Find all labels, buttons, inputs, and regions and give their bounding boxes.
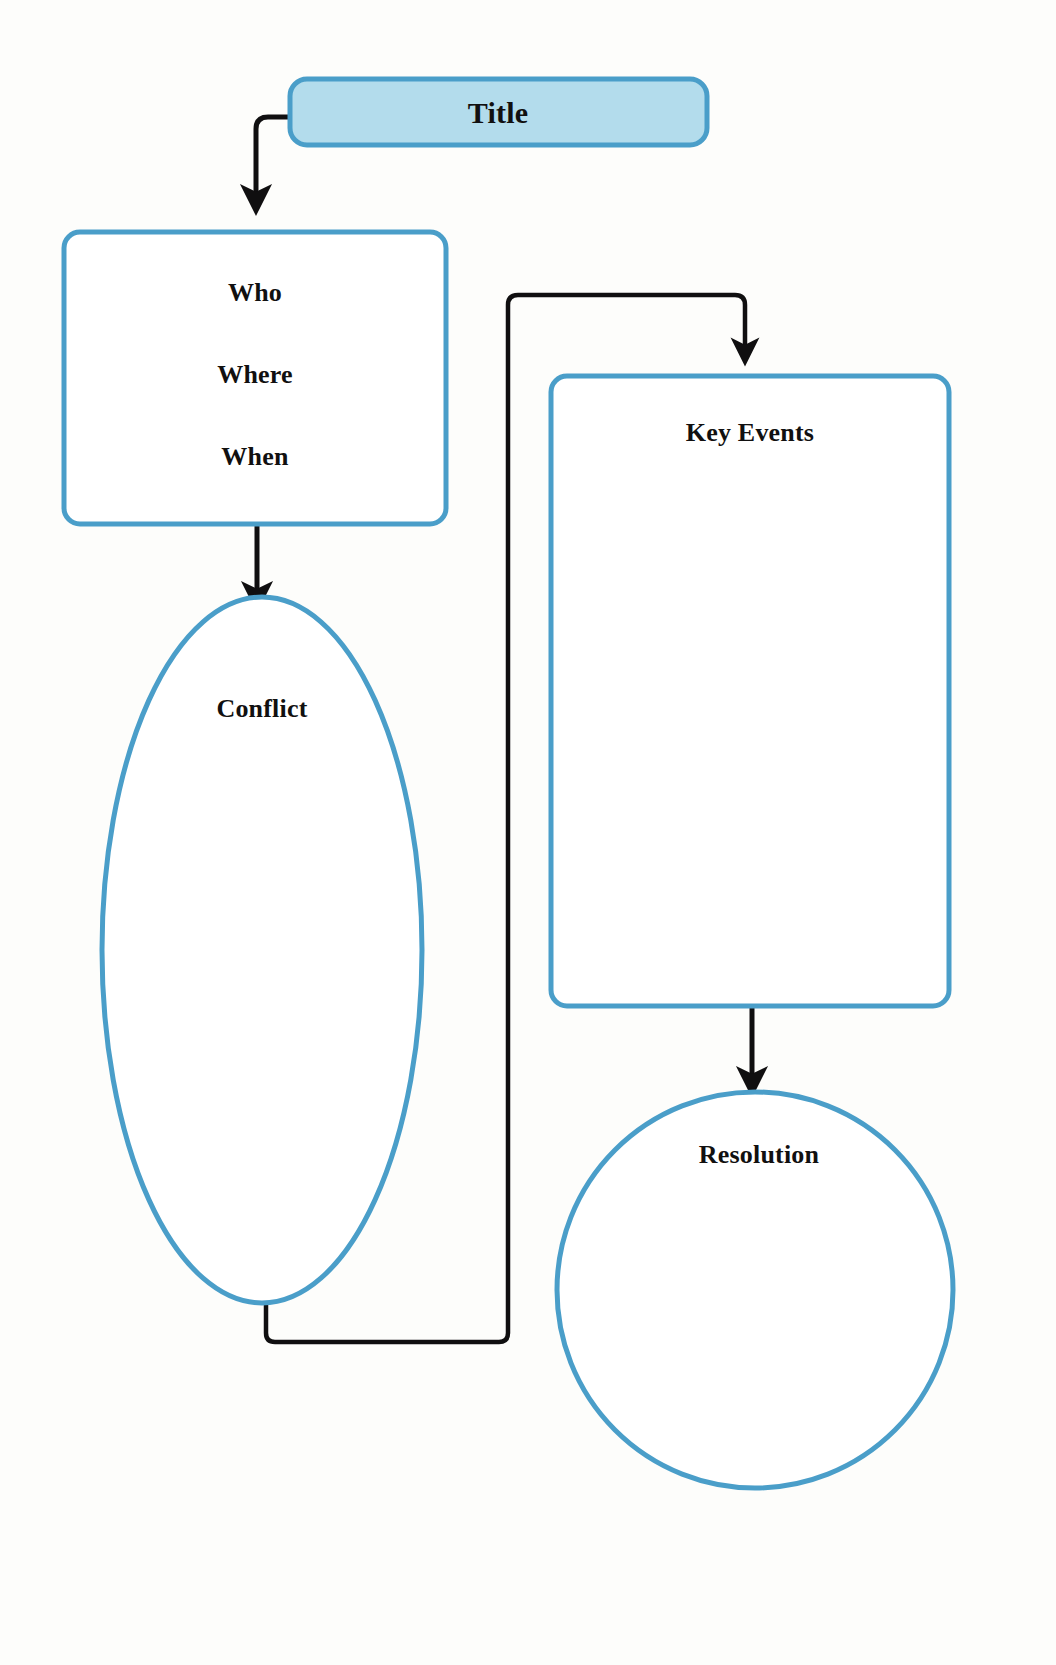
node-conflict-label: Conflict — [103, 694, 421, 724]
connector-title-to-who — [256, 117, 290, 200]
node-when-label: When — [64, 442, 446, 472]
node-key-events-label: Key Events — [551, 418, 949, 448]
node-key-events-shape — [551, 376, 949, 1006]
node-key-events[interactable] — [551, 376, 949, 1006]
diagram-canvas: Title Who Where When Conflict Key Events… — [0, 0, 1056, 1665]
node-who-label: Who — [64, 278, 446, 308]
node-resolution-label: Resolution — [565, 1140, 953, 1170]
story-map-diagram — [0, 0, 1056, 1665]
node-title-label: Title — [288, 96, 708, 130]
node-where-label: Where — [64, 360, 446, 390]
